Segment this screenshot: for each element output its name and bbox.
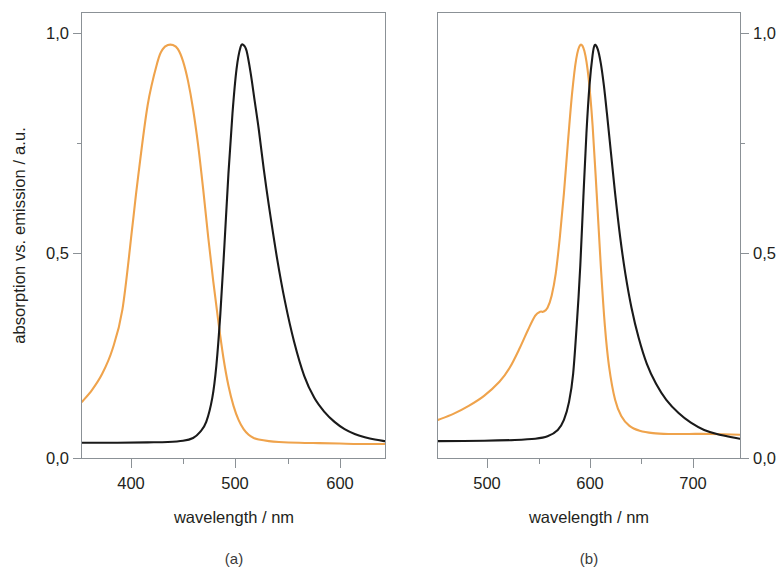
panel-caption-a: (a)	[225, 550, 243, 567]
curve-emission	[438, 45, 740, 441]
x-tick-a-minor-1	[288, 459, 289, 464]
y-ticklabel-b-0: 0,0	[753, 449, 776, 468]
curve-emission	[82, 44, 385, 442]
x-tick-a-minor-0	[183, 459, 184, 464]
y-tick-b-2	[741, 33, 749, 34]
x-ticklabel-a-2: 600	[326, 474, 354, 493]
x-ticklabel-a-0: 400	[117, 474, 145, 493]
x-axis-title-b: wavelength / nm	[529, 508, 649, 527]
y-tick-a-0	[73, 458, 81, 459]
y-ticklabel-a-1: 0,5	[46, 244, 69, 263]
x-tick-a-0	[131, 459, 132, 468]
y-tick-b-minor-0	[741, 143, 745, 144]
x-ticklabel-a-1: 500	[221, 474, 249, 493]
x-ticklabel-b-1: 600	[576, 474, 604, 493]
y-tick-a-2	[73, 33, 81, 34]
panel-b: 0,0 0,5 1,0 500 600 700 wavelength / nm …	[389, 0, 778, 580]
x-tick-a-2	[340, 459, 341, 468]
panel-caption-b: (b)	[580, 550, 598, 567]
y-ticklabel-a-2: 1,0	[46, 24, 69, 43]
y-ticklabel-b-1: 0,5	[753, 244, 776, 263]
x-axis-title-a: wavelength / nm	[174, 508, 294, 527]
x-tick-a-1	[235, 459, 236, 468]
x-tick-b-1	[590, 459, 591, 468]
spectroscopy-figure: absorption vs. emission / a.u. 0,0 0,5 1…	[0, 0, 778, 580]
y-ticklabel-a-0: 0,0	[46, 449, 69, 468]
plot-area-b	[437, 12, 741, 459]
spectra-plot-b	[438, 13, 740, 458]
y-ticklabel-b-2: 1,0	[753, 24, 776, 43]
x-ticklabel-b-0: 500	[473, 474, 501, 493]
y-tick-b-0	[741, 458, 749, 459]
plot-area-a	[81, 12, 386, 459]
spectra-plot-a	[82, 13, 385, 458]
x-ticklabel-b-2: 700	[679, 474, 707, 493]
x-tick-b-2	[693, 459, 694, 468]
y-tick-a-minor-0	[77, 143, 81, 144]
panel-a: 0,0 0,5 1,0 400 500 600 wavelength / nm …	[0, 0, 389, 580]
y-tick-a-1	[73, 253, 81, 254]
x-tick-b-0	[487, 459, 488, 468]
x-tick-b-minor-1	[641, 459, 642, 464]
y-tick-b-1	[741, 253, 749, 254]
x-tick-b-minor-0	[539, 459, 540, 464]
